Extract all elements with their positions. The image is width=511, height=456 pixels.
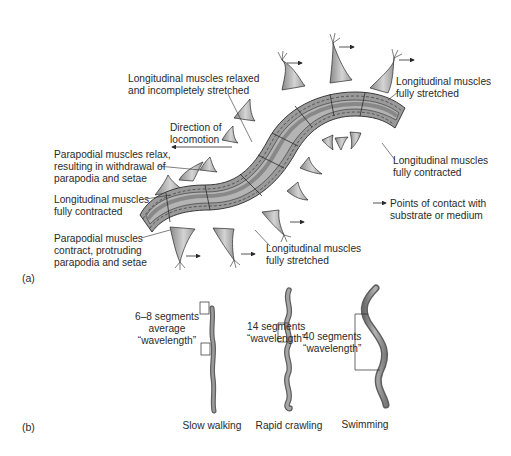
panel-label-a: (a) xyxy=(22,272,35,284)
label-rapid-crawling-wavelength: 14 segments “wavelength” xyxy=(247,321,306,344)
annotation-contracted-right: Longitudinal muscles fully contracted xyxy=(393,155,488,178)
annotation-relaxed: Longitudinal muscles relaxed and incompl… xyxy=(128,73,260,96)
svg-text:Longitudinal muscles: Longitudinal muscles xyxy=(393,155,488,166)
svg-text:and incompletely stretched: and incompletely stretched xyxy=(128,85,250,96)
svg-text:parapodia and setae: parapodia and setae xyxy=(54,257,147,268)
svg-text:fully stretched: fully stretched xyxy=(396,88,459,99)
svg-text:locomotion: locomotion xyxy=(170,134,219,145)
label-swimming-wavelength: 40 segments “wavelength” xyxy=(303,331,362,354)
svg-text:Direction of: Direction of xyxy=(170,122,222,133)
svg-text:Parapodial muscles relax,: Parapodial muscles relax, xyxy=(54,149,171,160)
wavelength-bracket xyxy=(200,302,209,314)
svg-text:substrate or medium: substrate or medium xyxy=(390,210,483,221)
svg-text:“wavelength”: “wavelength” xyxy=(138,335,197,346)
worm-rapid-crawling xyxy=(278,290,290,409)
svg-text:“wavelength”: “wavelength” xyxy=(247,333,306,344)
svg-text:fully stretched: fully stretched xyxy=(266,255,329,266)
polychaete-locomotion-figure: Longitudinal muscles relaxed and incompl… xyxy=(0,0,511,456)
svg-text:parapodia and setae: parapodia and setae xyxy=(54,173,147,184)
svg-text:average: average xyxy=(149,323,186,334)
svg-text:Longitudinal muscles: Longitudinal muscles xyxy=(266,243,361,254)
svg-text:Longitudinal muscles: Longitudinal muscles xyxy=(396,76,491,87)
svg-text:6–8 segments: 6–8 segments xyxy=(135,311,199,322)
svg-text:contract, protruding: contract, protruding xyxy=(54,245,142,256)
label-slow-walking-wavelength: 6–8 segments average “wavelength” xyxy=(135,311,199,346)
svg-text:Longitudinal muscles relaxed: Longitudinal muscles relaxed xyxy=(128,73,260,84)
annotation-stretched-bottom: Longitudinal muscles fully stretched xyxy=(266,243,361,266)
legend: Points of contact with substrate or medi… xyxy=(373,198,486,221)
panel-label-b: (b) xyxy=(22,421,35,433)
svg-text:fully contracted: fully contracted xyxy=(393,167,462,178)
svg-text:Longitudinal muscles: Longitudinal muscles xyxy=(54,194,149,205)
svg-text:14 segments: 14 segments xyxy=(247,321,305,332)
svg-text:“wavelength”: “wavelength” xyxy=(303,343,362,354)
svg-text:Parapodial muscles: Parapodial muscles xyxy=(54,233,143,244)
svg-text:resulting in withdrawal of: resulting in withdrawal of xyxy=(54,161,166,172)
caption-rapid-crawling: Rapid crawling xyxy=(256,420,323,431)
caption-swimming: Swimming xyxy=(342,419,389,430)
annotation-stretched-top: Longitudinal muscles fully stretched xyxy=(396,76,491,99)
svg-text:Points of contact with: Points of contact with xyxy=(390,198,486,209)
caption-slow-walking: Slow walking xyxy=(183,420,242,431)
annotation-parapodial-relax: Parapodial muscles relax, resulting in w… xyxy=(54,149,171,184)
annotation-parapodial-contract: Parapodial muscles contract, protruding … xyxy=(54,233,147,268)
annotation-contracted-left: Longitudinal muscles fully contracted xyxy=(54,194,149,217)
worm-slow-walking xyxy=(200,302,214,411)
svg-text:fully contracted: fully contracted xyxy=(54,206,123,217)
annotation-direction: Direction of locomotion xyxy=(170,122,222,145)
svg-text:40 segments: 40 segments xyxy=(303,331,361,342)
wavelength-bracket xyxy=(201,343,210,355)
